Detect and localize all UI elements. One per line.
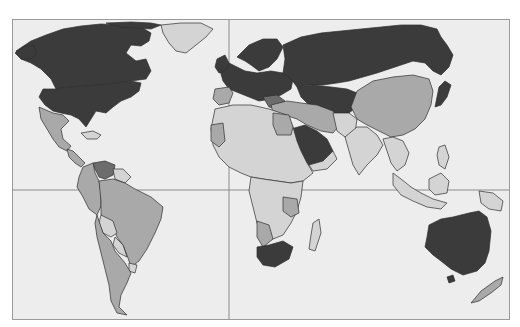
- region-scandinavia[interactable]: [237, 39, 283, 71]
- region-new-zealand[interactable]: [471, 277, 503, 303]
- region-caribbean[interactable]: [81, 131, 101, 139]
- region-papua-new-guinea[interactable]: [479, 191, 503, 211]
- region-central-america[interactable]: [67, 149, 85, 167]
- region-southeast-asia[interactable]: [383, 137, 409, 171]
- region-tasmania[interactable]: [447, 275, 455, 283]
- region-australia[interactable]: [425, 211, 491, 275]
- region-india[interactable]: [345, 127, 383, 175]
- region-japan[interactable]: [435, 81, 451, 107]
- world-map: [12, 19, 510, 320]
- region-madagascar[interactable]: [309, 219, 321, 251]
- region-borneo[interactable]: [429, 173, 449, 195]
- region-russia[interactable]: [283, 25, 453, 87]
- region-canada[interactable]: [16, 24, 151, 89]
- region-philippines[interactable]: [437, 145, 449, 169]
- map-canvas: [13, 20, 510, 320]
- region-greenland[interactable]: [161, 23, 213, 53]
- region-iberia[interactable]: [213, 87, 233, 105]
